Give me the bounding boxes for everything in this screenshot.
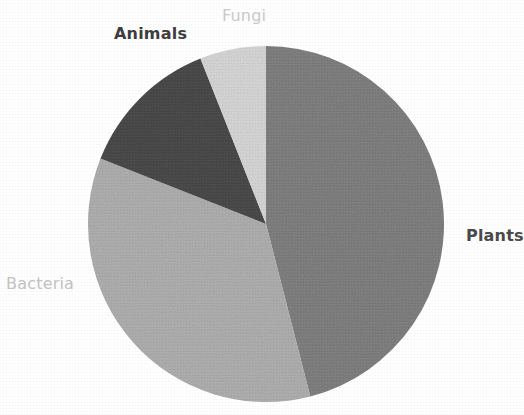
pie-label-animals: Animals	[114, 26, 187, 42]
pie-chart-canvas	[0, 0, 524, 415]
pie-label-fungi: Fungi	[222, 8, 266, 24]
pie-chart: Plants Bacteria Animals Fungi	[0, 0, 524, 415]
pie-label-plants: Plants	[466, 228, 524, 244]
pie-slices-group	[88, 46, 444, 402]
pie-label-bacteria: Bacteria	[6, 276, 74, 292]
